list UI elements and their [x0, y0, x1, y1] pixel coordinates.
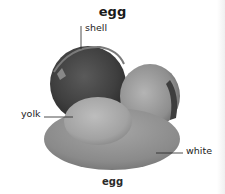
white-label: white [186, 146, 212, 156]
egg-yolk [64, 97, 132, 145]
yolk-label: yolk [21, 109, 41, 119]
shell-label: shell [85, 23, 107, 33]
egg-illustration-figure: egg [0, 0, 225, 194]
figure-caption: egg [0, 176, 225, 187]
egg-illustration [0, 0, 225, 194]
